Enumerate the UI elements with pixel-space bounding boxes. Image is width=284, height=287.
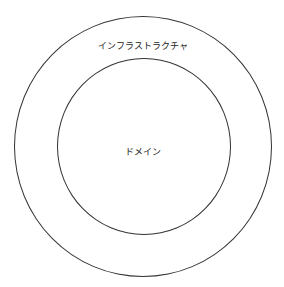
domain-label: ドメイン xyxy=(125,145,161,158)
infrastructure-label: インフラストラクチャ xyxy=(98,39,188,52)
